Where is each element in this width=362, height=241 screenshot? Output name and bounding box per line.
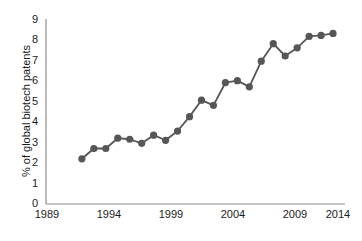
data-point [306, 33, 313, 40]
data-point [78, 155, 85, 162]
data-point [198, 97, 205, 104]
data-point [258, 58, 265, 65]
data-point [317, 32, 324, 39]
data-point [126, 136, 133, 143]
data-point [270, 40, 277, 47]
data-point [210, 102, 217, 109]
data-point [329, 30, 336, 37]
data-point [294, 44, 301, 51]
data-point [282, 52, 289, 59]
data-point [186, 113, 193, 120]
data-point [234, 77, 241, 84]
data-point [114, 135, 121, 142]
data-point [174, 127, 181, 134]
data-point [102, 145, 109, 152]
data-point [90, 145, 97, 152]
data-point [150, 132, 157, 139]
data-point [138, 140, 145, 147]
plot-area [0, 0, 362, 241]
data-point [162, 137, 169, 144]
data-point [246, 83, 253, 90]
data-point [222, 79, 229, 86]
series-markers [78, 30, 336, 163]
chart-container: % of global biotech patents 9 8 7 6 5 4 … [0, 0, 362, 241]
